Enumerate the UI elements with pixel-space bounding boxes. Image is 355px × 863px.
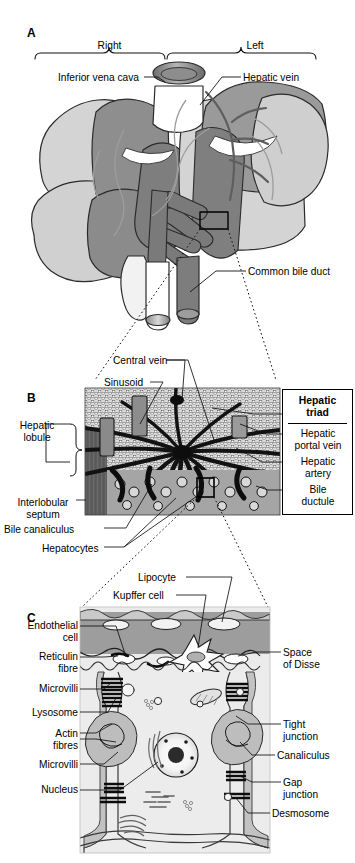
figure-root: A Right Left Inferior vena cava Hepatic … <box>0 0 355 863</box>
figure-artwork <box>0 0 355 863</box>
panel-a-lobe-braces <box>35 47 316 59</box>
panel-c-hepatocyte-illustration <box>80 607 270 854</box>
panel-a-liver-illustration <box>32 62 329 330</box>
panel-b-lobule-illustration <box>85 388 280 515</box>
